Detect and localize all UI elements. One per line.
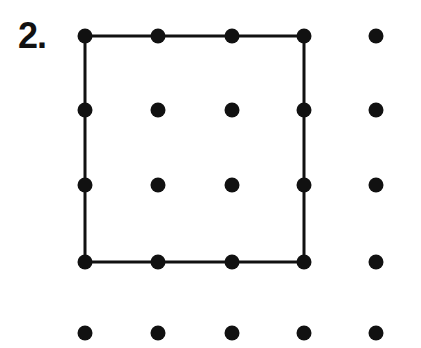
dot-grid-canvas (0, 0, 421, 348)
grid-dot-r0-c1[interactable] (151, 29, 166, 44)
grid-dot-r2-c0[interactable] (78, 178, 93, 193)
grid-dot-r0-c0[interactable] (78, 29, 93, 44)
dot-grid-worksheet: 2. (0, 0, 421, 348)
grid-dot-r4-c2[interactable] (225, 326, 240, 341)
grid-dot-r3-c2[interactable] (225, 255, 240, 270)
grid-dot-r2-c3[interactable] (297, 178, 312, 193)
grid-dot-r4-c1[interactable] (151, 326, 166, 341)
drawn-shape-square[interactable] (85, 36, 304, 262)
grid-dot-r1-c2[interactable] (225, 103, 240, 118)
grid-dot-r4-c4[interactable] (369, 326, 384, 341)
grid-dot-r4-c0[interactable] (78, 326, 93, 341)
grid-dot-r3-c0[interactable] (78, 255, 93, 270)
grid-dot-r1-c0[interactable] (78, 103, 93, 118)
grid-dot-r2-c1[interactable] (151, 178, 166, 193)
grid-dot-r1-c1[interactable] (151, 103, 166, 118)
dot-grid-dots (78, 29, 384, 341)
grid-dot-r1-c3[interactable] (297, 103, 312, 118)
grid-dot-r3-c1[interactable] (151, 255, 166, 270)
grid-dot-r3-c3[interactable] (297, 255, 312, 270)
grid-dot-r0-c4[interactable] (369, 29, 384, 44)
grid-dot-r0-c3[interactable] (297, 29, 312, 44)
grid-dot-r3-c4[interactable] (369, 255, 384, 270)
grid-dot-r1-c4[interactable] (369, 103, 384, 118)
grid-dot-r2-c2[interactable] (225, 178, 240, 193)
grid-dot-r4-c3[interactable] (297, 326, 312, 341)
grid-dot-r0-c2[interactable] (225, 29, 240, 44)
grid-dot-r2-c4[interactable] (369, 178, 384, 193)
